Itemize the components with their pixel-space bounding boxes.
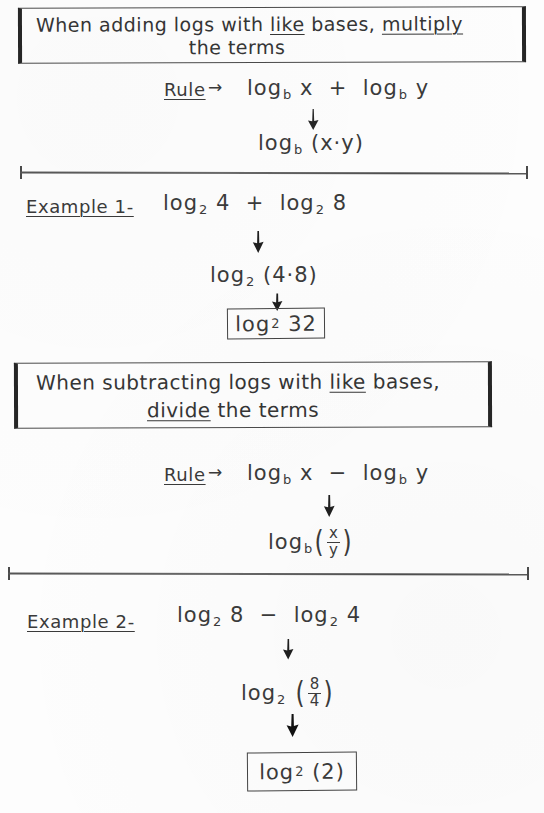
section-divider-2 bbox=[8, 567, 529, 581]
rule2-result-base: b bbox=[303, 541, 313, 556]
down-arrow-icon bbox=[320, 494, 338, 522]
rule1-line1-part-c: bases, bbox=[305, 13, 382, 35]
rule1-line1: When adding logs with like bases, multip… bbox=[32, 11, 512, 37]
rule1-left-log: log bbox=[247, 76, 282, 100]
rule1-operator: + bbox=[329, 76, 348, 100]
rule2-result-fraction: xy bbox=[327, 526, 340, 559]
example1-step-base: 2 bbox=[245, 274, 255, 289]
example2-left-log: log bbox=[177, 603, 212, 627]
rule1-right-base: b bbox=[398, 87, 408, 102]
example2-step-denominator: 4 bbox=[308, 693, 322, 710]
example1-right-arg: 8 bbox=[333, 191, 347, 215]
example2-step-log: log bbox=[241, 681, 276, 705]
rule1-result-arg: (x·y) bbox=[311, 131, 364, 155]
divider-cap-right bbox=[527, 567, 529, 580]
rule1-line1-part-a: When adding logs with bbox=[36, 13, 270, 36]
rule2-result-denominator: y bbox=[327, 542, 340, 559]
rule2-right-base: b bbox=[398, 472, 408, 487]
example2-right-base: 2 bbox=[329, 614, 339, 629]
rule2-line1-part-a: When subtracting logs with bbox=[36, 370, 330, 395]
example1-right-base: 2 bbox=[315, 202, 325, 217]
divider-cap-right bbox=[526, 166, 528, 179]
example1-step-arg: (4·8) bbox=[263, 263, 318, 287]
example1-answer-arg: 32 bbox=[288, 311, 317, 335]
rule-box-subtraction: When subtracting logs with like bases, d… bbox=[14, 361, 492, 429]
right-paren: ) bbox=[324, 678, 334, 708]
example2-right-log: log bbox=[294, 603, 329, 627]
rule2-label: Rule bbox=[164, 464, 206, 485]
rule1-right-log: log bbox=[363, 76, 398, 100]
rule2-right-log: log bbox=[363, 461, 398, 485]
example2-step-numerator: 8 bbox=[308, 677, 322, 693]
rule1-result-log: log bbox=[258, 131, 293, 155]
example1-operator: + bbox=[246, 191, 265, 215]
example1-answer-log: log bbox=[235, 312, 270, 336]
example2-answer-log: log bbox=[259, 760, 294, 784]
example1-answer: log2 32 bbox=[228, 309, 324, 339]
rule1-left-arg: x bbox=[300, 76, 313, 100]
rule1-right-arg: y bbox=[416, 76, 429, 100]
rule2-emphasis-divide: divide bbox=[147, 398, 211, 422]
rule1-left-base: b bbox=[282, 87, 292, 102]
example2-operator: − bbox=[260, 603, 279, 627]
rule1-emphasis-multiply: multiply bbox=[382, 12, 463, 34]
rule1-result: logb (x·y) bbox=[258, 133, 364, 156]
example1-answer-base: 2 bbox=[270, 316, 280, 331]
rule2-left-base: b bbox=[282, 472, 292, 487]
rule2-right-arg: y bbox=[416, 461, 429, 485]
example2-answer-box: log2 (2) bbox=[247, 752, 357, 792]
rule1-label-arrow: → bbox=[208, 77, 223, 97]
example2-left-base: 2 bbox=[212, 614, 222, 629]
example2-step: log2 (84) bbox=[241, 678, 335, 711]
rule2-label-arrow: → bbox=[208, 462, 223, 482]
rule2-left-log: log bbox=[247, 461, 282, 485]
example2-label: Example 2- bbox=[27, 611, 135, 632]
section-divider-1 bbox=[20, 166, 528, 180]
example1-answer-box: log2 32 bbox=[227, 308, 325, 340]
rule2-line2: divide the terms bbox=[28, 396, 478, 423]
rule1-label: Rule bbox=[164, 79, 206, 100]
rule2-left-arg: x bbox=[300, 461, 313, 485]
rule2-emphasis-like: like bbox=[329, 370, 365, 394]
rule2-result: logb(xy) bbox=[268, 527, 354, 560]
example1-right-log: log bbox=[280, 191, 315, 215]
down-arrow-icon bbox=[279, 638, 297, 666]
example2-answer: log2 (2) bbox=[248, 753, 356, 791]
example2-step-fraction: 84 bbox=[308, 677, 322, 710]
left-paren: ( bbox=[315, 527, 325, 557]
rule1-expression: logb x + logb y bbox=[247, 78, 429, 101]
rule2-operator: − bbox=[329, 461, 348, 485]
rule2-line2-part-b: the terms bbox=[211, 398, 320, 422]
example1-left-log: log bbox=[163, 191, 198, 215]
example1-left-base: 2 bbox=[198, 202, 208, 217]
down-arrow-icon bbox=[283, 713, 301, 741]
example2-answer-arg: (2) bbox=[312, 759, 345, 783]
rule1-result-base: b bbox=[293, 142, 303, 157]
example2-answer-base: 2 bbox=[294, 764, 304, 779]
rule1-line2: the terms bbox=[32, 35, 512, 60]
rule2-expression: logb x − logb y bbox=[247, 463, 429, 486]
example1-expression: log2 4 + log2 8 bbox=[163, 193, 347, 216]
left-paren: ( bbox=[295, 678, 305, 708]
example1-step: log2 (4·8) bbox=[210, 265, 318, 288]
divider-bar bbox=[8, 572, 529, 575]
example2-left-arg: 8 bbox=[230, 603, 244, 627]
right-paren: ) bbox=[342, 527, 352, 557]
divider-bar bbox=[20, 171, 528, 174]
example1-left-arg: 4 bbox=[216, 191, 230, 215]
example1-label: Example 1- bbox=[26, 196, 134, 217]
rule2-line1: When subtracting logs with like bases, bbox=[28, 366, 478, 397]
rule1-emphasis-like: like bbox=[270, 13, 305, 35]
example2-right-arg: 4 bbox=[347, 603, 361, 627]
example1-step-log: log bbox=[210, 263, 245, 287]
rule-box-addition: When adding logs with like bases, multip… bbox=[18, 6, 526, 64]
down-arrow-icon bbox=[249, 230, 267, 258]
rule2-result-log: log bbox=[268, 530, 303, 554]
rule2-line1-part-c: bases, bbox=[366, 369, 440, 393]
rule2-result-numerator: x bbox=[327, 526, 340, 542]
example2-step-base: 2 bbox=[276, 692, 286, 707]
example2-expression: log2 8 − log2 4 bbox=[177, 605, 361, 628]
